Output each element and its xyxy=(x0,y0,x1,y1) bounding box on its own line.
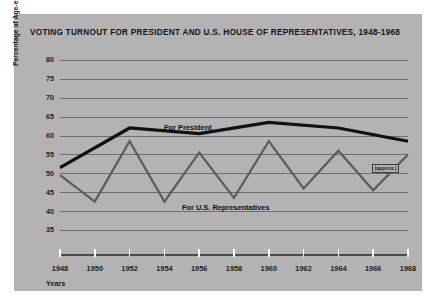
x-axis-tick xyxy=(268,249,270,257)
x-axis-tick-label: 1952 xyxy=(113,264,147,273)
y-axis-tick-label: 80 xyxy=(38,56,54,63)
y-axis-tick-label: 60 xyxy=(38,132,54,139)
x-axis-tick-label: 1962 xyxy=(287,264,321,273)
y-axis-label: Percentage of Age-eligible Voters Voting xyxy=(12,0,19,66)
x-axis-tick xyxy=(129,249,131,257)
x-axis-tick-label: 1950 xyxy=(78,264,112,273)
y-axis-tick-label: 70 xyxy=(38,94,54,101)
chart-title: VOTING TURNOUT FOR PRESIDENT AND U.S. HO… xyxy=(30,28,410,37)
x-axis-tick xyxy=(303,249,305,257)
x-axis-tick-label: 1956 xyxy=(182,264,216,273)
series-label-president: For President xyxy=(164,123,212,132)
x-axis-tick-label: 1966 xyxy=(356,264,390,273)
x-axis-label: Years xyxy=(46,279,65,288)
x-axis-tick xyxy=(164,249,166,257)
y-axis-tick-label: 55 xyxy=(38,151,54,158)
y-axis-tick-label: 35 xyxy=(38,226,54,233)
approx-annotation: (approx.) xyxy=(372,164,399,173)
x-axis-tick-label: 1954 xyxy=(147,264,181,273)
x-axis-tick xyxy=(198,249,200,257)
x-axis-tick-label: 1960 xyxy=(252,264,286,273)
x-axis-tick xyxy=(338,249,340,257)
x-axis-tick xyxy=(94,249,96,257)
y-axis-tick-label: 40 xyxy=(38,208,54,215)
x-axis-tick xyxy=(59,249,61,257)
y-axis-tick-label: 65 xyxy=(38,113,54,120)
y-axis-tick-label: 75 xyxy=(38,75,54,82)
y-axis-tick-label: 50 xyxy=(38,170,54,177)
chart-figure: VOTING TURNOUT FOR PRESIDENT AND U.S. HO… xyxy=(14,14,422,291)
x-axis-tick-label: 1964 xyxy=(321,264,355,273)
x-axis-tick-label: 1948 xyxy=(43,264,77,273)
gridline xyxy=(60,230,408,231)
x-axis-tick-label: 1958 xyxy=(217,264,251,273)
series-line-representatives xyxy=(60,141,408,201)
x-axis-tick xyxy=(233,249,235,257)
x-axis-tick-label: 1968 xyxy=(391,264,425,273)
x-axis-tick xyxy=(407,249,409,257)
series-label-representatives: For U.S. Representatives xyxy=(182,203,270,212)
y-axis-tick-label: 45 xyxy=(38,189,54,196)
series-line-president xyxy=(60,122,408,167)
x-axis-tick xyxy=(372,249,374,257)
